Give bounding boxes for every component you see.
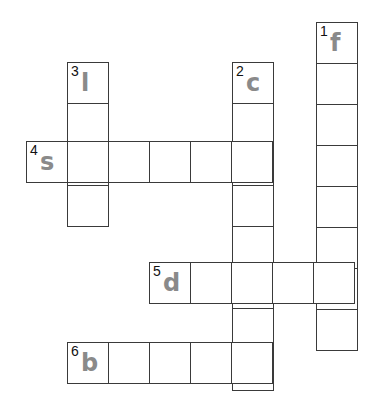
crossword-cell[interactable]: [316, 145, 358, 187]
clue-number: 2: [236, 64, 244, 78]
hint-letter: b: [81, 351, 98, 375]
hint-letter: s: [40, 150, 54, 174]
hint-letter: c: [246, 71, 260, 95]
crossword-cell[interactable]: [108, 141, 150, 183]
hint-letter: f: [330, 31, 340, 55]
crossword-cell[interactable]: [149, 141, 191, 183]
crossword-cell[interactable]: 5d: [149, 262, 191, 304]
crossword-cell[interactable]: [67, 185, 109, 227]
crossword-grid: 1f2c3l4s5d6b: [0, 0, 380, 402]
clue-number: 1: [320, 24, 328, 38]
crossword-cell[interactable]: [313, 262, 355, 304]
crossword-cell[interactable]: 3l: [67, 62, 109, 104]
crossword-cell[interactable]: [231, 262, 273, 304]
crossword-cell[interactable]: [190, 342, 232, 384]
crossword-cell[interactable]: [108, 342, 150, 384]
crossword-cell[interactable]: [316, 186, 358, 228]
crossword-cell[interactable]: [272, 262, 314, 304]
crossword-cell[interactable]: [232, 103, 274, 145]
crossword-cell[interactable]: [316, 309, 358, 351]
clue-number: 6: [71, 344, 79, 358]
crossword-cell[interactable]: [316, 104, 358, 146]
crossword-cell[interactable]: [149, 342, 191, 384]
crossword-cell[interactable]: 2c: [232, 62, 274, 104]
clue-number: 4: [30, 143, 38, 157]
crossword-cell[interactable]: 1f: [316, 22, 358, 64]
crossword-cell[interactable]: [67, 103, 109, 145]
clue-number: 3: [71, 64, 79, 78]
hint-letter: d: [163, 271, 180, 295]
crossword-cell[interactable]: [190, 262, 232, 304]
crossword-cell[interactable]: [232, 185, 274, 227]
crossword-cell[interactable]: [67, 141, 109, 183]
crossword-cell[interactable]: [190, 141, 232, 183]
crossword-cell[interactable]: [231, 342, 273, 384]
crossword-cell[interactable]: 4s: [26, 141, 68, 183]
hint-letter: l: [81, 71, 89, 95]
clue-number: 5: [153, 264, 161, 278]
crossword-cell[interactable]: [231, 141, 273, 183]
crossword-cell[interactable]: 6b: [67, 342, 109, 384]
crossword-cell[interactable]: [316, 63, 358, 105]
